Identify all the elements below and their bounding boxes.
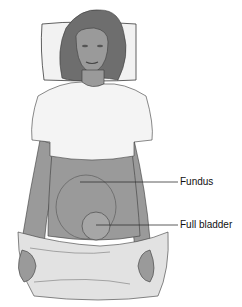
left-eye bbox=[82, 45, 88, 48]
fundus-label: Fundus bbox=[180, 176, 213, 187]
shirt bbox=[32, 82, 153, 160]
illustration bbox=[0, 0, 242, 307]
right-eye bbox=[97, 45, 103, 48]
full-bladder-label: Full bladder bbox=[180, 219, 232, 230]
bladder-outline bbox=[82, 212, 110, 240]
